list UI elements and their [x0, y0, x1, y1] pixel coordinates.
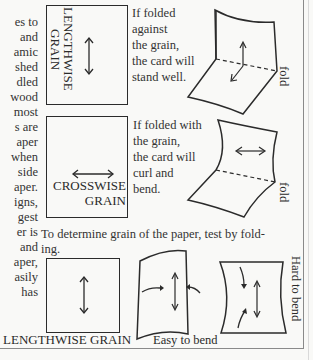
vertical-double-arrow-icon [78, 275, 90, 315]
caption-line: curl and [133, 165, 202, 181]
crosswise-label-line2: GRAIN [85, 194, 126, 208]
crosswise-label-line1: CROSSWISE [53, 179, 126, 193]
hard-to-bend-label: Hard to bend [290, 256, 302, 321]
page-frame-right [303, 0, 304, 349]
easy-to-bend-label: Easy to bend [153, 333, 218, 347]
page-edge-shadow [308, 0, 309, 360]
caption-line: the card will [133, 149, 202, 165]
instruction-line2: ing. [41, 241, 60, 257]
instruction-line1: To determine grain of the paper, test by… [41, 226, 265, 242]
caption-with-grain: If folded with the grain, the card will … [133, 117, 202, 197]
caption-line: bend. [133, 181, 202, 197]
bottom-lengthwise-label: LENGTHWISE GRAIN [3, 333, 131, 347]
fold-label: fold [278, 182, 290, 202]
bottom-lengthwise-box [46, 258, 120, 333]
caption-line: the grain, [133, 133, 202, 149]
caption-line: If folded with [133, 117, 202, 133]
page-frame-bottom [0, 348, 304, 349]
fold-label: fold [278, 66, 290, 86]
crosswise-grain-box: CROSSWISE GRAIN [46, 116, 128, 218]
